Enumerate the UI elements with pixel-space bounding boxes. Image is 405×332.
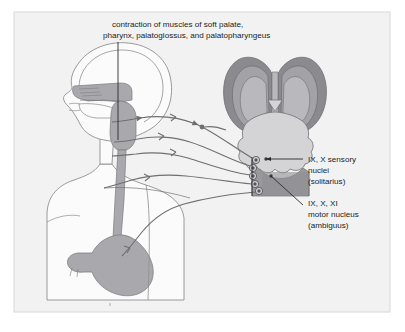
anatomy-diagram-svg: contraction of muscles of soft palate, p… xyxy=(0,0,405,332)
medulla-shading xyxy=(262,172,309,196)
caption-line-1: contraction of muscles of soft palate, xyxy=(112,20,243,29)
nucleus-dot-4 xyxy=(253,182,256,185)
caption-line-2: pharynx, palatoglossus, and palatopharyn… xyxy=(103,31,270,40)
nasal-cavity xyxy=(73,83,132,102)
cerebellum xyxy=(238,112,313,173)
nucleus-dot-5 xyxy=(257,189,260,192)
pharynx xyxy=(110,101,136,150)
sensory-label-line-3: (solitarius) xyxy=(308,177,346,186)
midline-structure xyxy=(272,72,278,104)
nerve-terminal-bulb xyxy=(200,125,205,130)
nucleus-dot-1 xyxy=(254,158,257,161)
figure-root: contraction of muscles of soft palate, p… xyxy=(0,0,405,332)
sensory-label-line-1: IX, X sensory xyxy=(308,155,357,164)
motor-label-line-1: IX, X, XI xyxy=(308,199,338,208)
motor-label-line-2: motor nucleus xyxy=(308,210,359,219)
motor-label-line-3: (ambiguus) xyxy=(308,221,349,230)
sensory-label-line-2: nuclei xyxy=(308,166,329,175)
